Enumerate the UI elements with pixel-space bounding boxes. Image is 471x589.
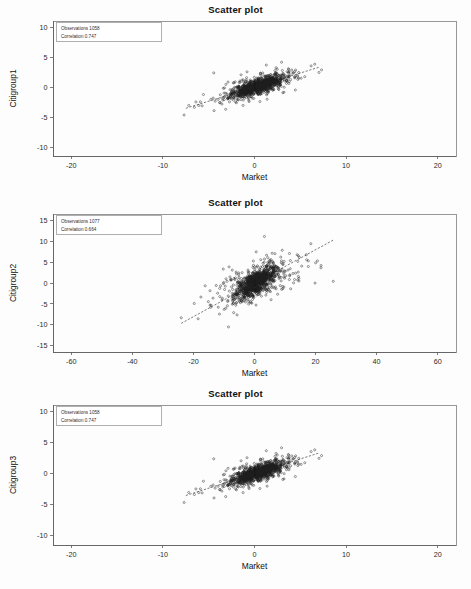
data-point [217, 485, 219, 487]
data-point [201, 492, 203, 494]
data-point [248, 488, 250, 490]
data-point [300, 463, 302, 465]
data-point [225, 496, 227, 498]
regression-fit-line [186, 453, 319, 495]
x-axis-title: Market [242, 561, 268, 571]
data-point [275, 452, 277, 454]
data-point [266, 485, 268, 487]
data-point [183, 501, 185, 503]
y-axis: 1050-5-10 [37, 407, 53, 540]
legend-box-group: Observations 1058Correlation 0.747 [56, 407, 161, 426]
data-point [227, 467, 229, 469]
data-point [241, 465, 243, 467]
legend-annotation-1: Observations 1058 [61, 410, 100, 415]
data-point [314, 449, 316, 451]
data-point [213, 497, 215, 499]
y-tick-label: 5 [44, 438, 48, 447]
data-point [202, 480, 204, 482]
data-point [240, 485, 242, 487]
data-point [265, 450, 267, 452]
data-point [193, 493, 195, 495]
y-tick-label: -5 [41, 500, 47, 509]
data-point [242, 486, 244, 488]
x-axis: -20-1001020 [66, 545, 442, 559]
data-point [221, 484, 223, 486]
data-point [228, 488, 230, 490]
y-axis-title: Citigroup3 [8, 456, 18, 495]
data-point [214, 487, 216, 489]
data-point [283, 473, 285, 475]
data-point [225, 470, 227, 472]
x-tick-label: 0 [253, 550, 257, 559]
data-point [281, 455, 283, 457]
data-point [318, 457, 320, 459]
y-tick-label: 0 [44, 469, 48, 478]
data-point [242, 492, 244, 494]
data-point [321, 455, 323, 457]
data-point [262, 458, 264, 460]
data-point [304, 462, 306, 464]
panel-3-plot: 1050-5-10-20-1001020MarketCitigroup3Obse… [0, 0, 471, 589]
data-point [291, 455, 293, 457]
data-point-cloud [183, 447, 323, 504]
x-tick-label: -10 [158, 550, 168, 559]
data-point [188, 491, 190, 493]
data-point [290, 465, 292, 467]
data-point [195, 488, 197, 490]
scatter-plot-figure: Scatter plot 1050-5-10-20-1001020MarketC… [0, 0, 471, 589]
data-point [212, 484, 214, 486]
x-tick-label: 10 [342, 550, 350, 559]
data-point [221, 490, 223, 492]
y-tick-label: -10 [37, 531, 47, 540]
data-point [259, 487, 261, 489]
data-point [219, 480, 221, 482]
data-point [274, 455, 276, 457]
data-point [310, 451, 312, 453]
data-point [295, 455, 297, 457]
x-tick-label: -20 [66, 550, 76, 559]
legend-annotation-2: Correlation 0.747 [61, 418, 97, 423]
data-point [199, 488, 201, 490]
data-point [240, 460, 242, 462]
data-point [213, 458, 215, 460]
y-tick-label: 10 [40, 407, 48, 416]
data-point [253, 462, 255, 464]
data-point [281, 447, 283, 449]
data-point [232, 486, 234, 488]
data-point [294, 475, 296, 477]
data-point [246, 463, 248, 465]
x-tick-label: 20 [434, 550, 442, 559]
data-point [246, 457, 248, 459]
